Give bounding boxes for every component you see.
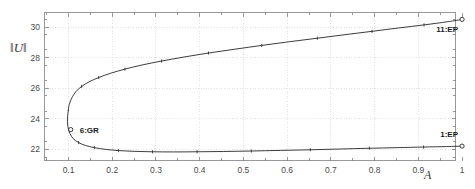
y-tick-30: 30	[20, 22, 40, 32]
y-tick-26: 26	[20, 83, 40, 93]
x-tick-0.3: 0.3	[141, 165, 171, 175]
x-tick-0.7: 0.7	[316, 165, 346, 175]
x-tick-0.8: 0.8	[360, 165, 390, 175]
ep-lower-point	[460, 144, 464, 148]
x-tick-0.5: 0.5	[228, 165, 258, 175]
axis-frame	[45, 13, 456, 161]
x-tick-0.1: 0.1	[54, 165, 84, 175]
bifurcation-diagram-figure: ‖U‖ A 2224262830 0.10.20.30.40.50.60.70.…	[0, 0, 475, 189]
special-point-markers	[69, 17, 465, 148]
grid-lines	[45, 13, 456, 161]
x-tick-0.4: 0.4	[185, 165, 215, 175]
data-point-markers	[79, 18, 462, 154]
x-tick-1: 1	[447, 165, 475, 175]
ep-upper-point	[460, 17, 464, 21]
ep-lower-point-label: 1:EP	[440, 130, 458, 139]
gr-point-label: 6:GR	[80, 126, 99, 135]
axis-ticks	[45, 13, 463, 161]
y-tick-24: 24	[20, 114, 40, 124]
data-curves	[67, 19, 462, 152]
x-tick-0.6: 0.6	[272, 165, 302, 175]
plot-canvas	[0, 0, 475, 189]
x-tick-0.9: 0.9	[403, 165, 433, 175]
x-tick-0.2: 0.2	[97, 165, 127, 175]
ep-upper-point-label: 11:EP	[436, 25, 458, 34]
gr-point	[69, 127, 73, 131]
y-tick-22: 22	[20, 144, 40, 154]
y-tick-28: 28	[20, 53, 40, 63]
